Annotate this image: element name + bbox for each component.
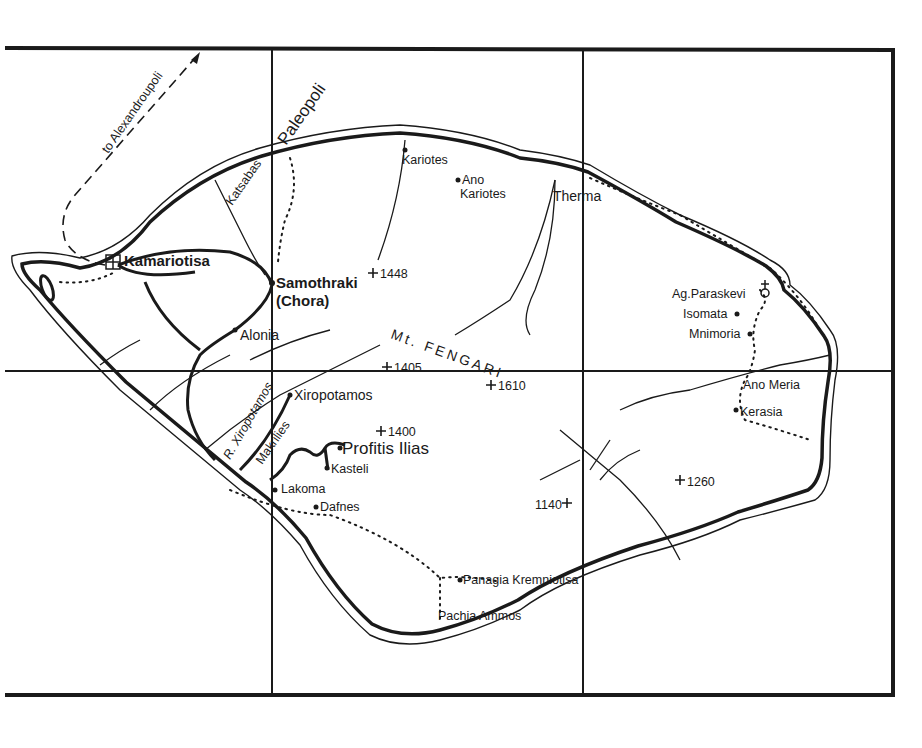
streams: [100, 140, 830, 560]
label-ano-kariotes: Kariotes: [460, 187, 506, 201]
label-isomata: Isomata: [683, 307, 728, 321]
coastline-outer: [12, 125, 838, 644]
peak-1400: 1400: [388, 425, 416, 439]
label-kerasia: Kerasia: [740, 405, 782, 419]
label-chora: (Chora): [276, 292, 329, 309]
label-lakoma: Lakoma: [281, 482, 326, 496]
label-kasteli: Kasteli: [331, 462, 369, 476]
label-ag-paraskevi: Ag.Paraskevi: [672, 287, 746, 301]
label-kamariotisa: Kamariotisa: [124, 252, 211, 269]
label-katsabas: Katsabas: [223, 157, 264, 208]
label-dafnes: Dafnes: [320, 500, 360, 514]
coastline: [22, 133, 830, 634]
peak-1140: 1140: [535, 498, 562, 512]
label-profitis-ilias: Profitis Ilias: [342, 439, 429, 458]
label-mnimoria: Mnimoria: [689, 327, 740, 341]
island-map: to Alexandroupoli Paleopoli Katsabas Kam…: [0, 0, 922, 748]
church-icon: [761, 280, 769, 297]
label-alonia: Alonia: [240, 327, 279, 343]
label-panagia-kremniotisa: Panagia Kremniotisa: [463, 573, 578, 587]
label-samothraki: Samothraki: [276, 274, 358, 291]
peak-icons: [368, 268, 685, 508]
peak-1610: 1610: [498, 379, 526, 393]
label-xiropotamos: Xiropotamos: [294, 387, 373, 403]
label-kariotes: Kariotes: [402, 153, 448, 167]
label-pachia-ammos: Pachia Ammos: [438, 609, 521, 623]
lagoon: [38, 274, 56, 302]
peak-1448: 1448: [380, 267, 408, 281]
label-ano-meria: Ano Meria: [743, 378, 800, 392]
peak-1405: 1405: [394, 361, 422, 375]
label-ano: Ano: [462, 173, 484, 187]
ferry-route: [63, 58, 195, 265]
map-frame: [5, 48, 893, 697]
peak-1260: 1260: [687, 475, 715, 489]
label-therma: Therma: [553, 188, 601, 204]
ferry-label: to Alexandroupoli: [99, 69, 165, 156]
